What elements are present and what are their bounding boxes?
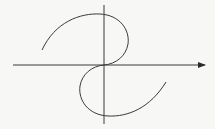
curve-upper-branch <box>42 14 128 65</box>
curve-diagram: Curve symmetric about the origin drawn o… <box>0 0 215 129</box>
curve-lower-branch <box>80 65 166 116</box>
diagram-canvas <box>0 0 215 129</box>
